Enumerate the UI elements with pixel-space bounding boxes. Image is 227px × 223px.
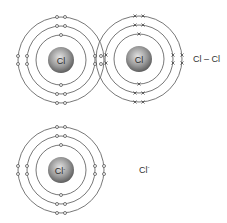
chloride-ion: Cl- <box>17 126 106 215</box>
chlorine-bonding-diagram: Cl Cl <box>0 0 227 223</box>
nucleus-label: Cl <box>57 56 66 66</box>
ion-label: Cl- <box>139 164 150 175</box>
ion-symbol: Cl <box>139 165 148 175</box>
right-chlorine-atom: Cl <box>96 15 184 104</box>
ion-charge: - <box>148 164 150 170</box>
left-chlorine-atom: Cl <box>17 16 105 105</box>
molecule-label: Cl – Cl <box>193 54 220 64</box>
nucleus-label: Cl <box>135 55 144 65</box>
